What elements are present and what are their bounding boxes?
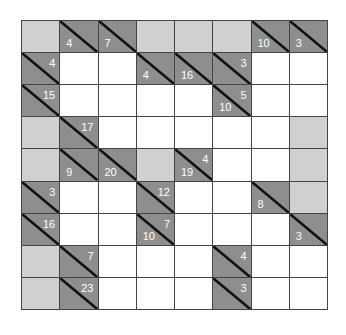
across-clue-number: 23 [81,283,93,294]
clue-cell: 10 [252,21,290,53]
down-clue-number: 8 [258,199,264,210]
entry-cell[interactable] [252,278,290,310]
entry-cell[interactable] [99,85,137,117]
entry-cell[interactable] [290,246,328,278]
clue-cell: 20 [99,149,137,181]
down-clue-number: 20 [105,167,117,178]
clue-cell: 3 [213,53,251,85]
down-clue-number: 10 [258,38,270,49]
clue-cell: 3 [213,278,251,310]
entry-cell[interactable] [60,214,98,246]
entry-cell[interactable] [137,117,175,149]
across-clue-number: 3 [240,283,246,294]
entry-cell[interactable] [99,278,137,310]
entry-cell[interactable] [175,85,213,117]
kakuro-board: 47103441631551017920419312816710374233 [21,20,328,310]
clue-cell: 3 [290,21,328,53]
down-clue-number: 4 [143,70,149,81]
clue-cell: 3 [22,182,60,214]
entry-cell[interactable] [213,214,251,246]
entry-cell[interactable] [99,214,137,246]
entry-cell[interactable] [252,117,290,149]
blocked-cell [290,117,328,149]
entry-cell[interactable] [252,214,290,246]
blocked-cell [22,246,60,278]
entry-cell[interactable] [60,85,98,117]
across-clue-number: 7 [164,219,170,230]
blocked-cell [22,21,60,53]
entry-cell[interactable] [252,85,290,117]
clue-cell: 9 [60,149,98,181]
blocked-cell [290,182,328,214]
blocked-cell [213,21,251,53]
down-clue-number: 4 [66,38,72,49]
down-clue-number: 3 [296,38,302,49]
entry-cell[interactable] [60,53,98,85]
entry-cell[interactable] [175,117,213,149]
entry-cell[interactable] [99,117,137,149]
clue-cell: 419 [175,149,213,181]
clue-cell: 17 [60,117,98,149]
across-clue-number: 4 [202,154,208,165]
across-clue-number: 3 [49,187,55,198]
across-clue-number: 16 [43,219,55,230]
blocked-cell [22,278,60,310]
down-clue-number: 3 [296,231,302,242]
clue-cell: 4 [137,53,175,85]
entry-cell[interactable] [213,182,251,214]
down-clue-number: 9 [66,167,72,178]
entry-cell[interactable] [290,278,328,310]
down-clue-number: 7 [105,38,111,49]
blocked-cell [22,117,60,149]
entry-cell[interactable] [252,53,290,85]
entry-cell[interactable] [137,278,175,310]
entry-cell[interactable] [137,246,175,278]
clue-cell: 4 [213,246,251,278]
down-clue-number: 10 [219,102,231,113]
entry-cell[interactable] [137,85,175,117]
blocked-cell [175,21,213,53]
blocked-cell [22,149,60,181]
clue-cell: 4 [60,21,98,53]
clue-cell: 12 [137,182,175,214]
entry-cell[interactable] [252,246,290,278]
entry-cell[interactable] [252,149,290,181]
blocked-cell [290,149,328,181]
clue-cell: 3 [290,214,328,246]
entry-cell[interactable] [175,182,213,214]
blocked-cell [137,21,175,53]
across-clue-number: 17 [81,122,93,133]
clue-cell: 8 [252,182,290,214]
entry-cell[interactable] [175,278,213,310]
entry-cell[interactable] [290,53,328,85]
across-clue-number: 5 [240,90,246,101]
clue-cell: 4 [22,53,60,85]
clue-cell: 7 [99,21,137,53]
down-clue-number: 19 [181,167,193,178]
entry-cell[interactable] [290,85,328,117]
entry-cell[interactable] [213,117,251,149]
entry-cell[interactable] [175,246,213,278]
clue-cell: 510 [213,85,251,117]
clue-cell: 15 [22,85,60,117]
across-clue-number: 7 [87,251,93,262]
entry-cell[interactable] [99,182,137,214]
across-clue-number: 12 [158,187,170,198]
across-clue-number: 4 [240,251,246,262]
clue-cell: 710 [137,214,175,246]
down-clue-number: 16 [181,70,193,81]
across-clue-number: 3 [240,58,246,69]
clue-cell: 16 [175,53,213,85]
entry-cell[interactable] [175,214,213,246]
clue-cell: 16 [22,214,60,246]
blocked-cell [137,149,175,181]
entry-cell[interactable] [99,53,137,85]
down-clue-number: 10 [143,231,155,242]
entry-cell[interactable] [60,182,98,214]
clue-cell: 7 [60,246,98,278]
across-clue-number: 15 [43,90,55,101]
clue-cell: 23 [60,278,98,310]
entry-cell[interactable] [99,246,137,278]
across-clue-number: 4 [49,58,55,69]
entry-cell[interactable] [213,149,251,181]
